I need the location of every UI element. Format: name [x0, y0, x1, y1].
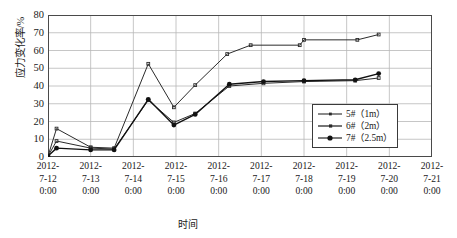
data-point: [112, 148, 117, 153]
y-axis-tick-label: 70: [18, 28, 44, 38]
y-axis-ticks: 01020304050607080: [14, 15, 44, 157]
legend-item-0: 5#（1m）: [317, 108, 392, 120]
chart-legend: 5#（1m） 6#（2m） 7#（2.5m）: [312, 104, 398, 148]
x-axis-ticks: 2012-7-120:002012-7-130:002012-7-140:002…: [48, 160, 432, 216]
data-point: [353, 77, 358, 82]
legend-key-line-icon: [317, 109, 343, 119]
y-axis-tick-label: 10: [18, 134, 44, 144]
data-point: [302, 78, 307, 83]
legend-label-6: 6#（2m）: [346, 121, 385, 131]
x-axis-label: 时间: [178, 216, 198, 231]
legend-label-7: 7#（2.5m）: [346, 133, 392, 143]
data-point: [227, 82, 232, 87]
legend-key-marker-icon: [317, 133, 343, 143]
data-point: [376, 71, 381, 76]
legend-item-2: 7#（2.5m）: [317, 132, 392, 144]
y-axis-tick-label: 80: [18, 10, 44, 20]
data-point: [146, 97, 151, 102]
x-axis-tick-label: 2012-7-210:00: [403, 160, 457, 198]
legend-label-5: 5#（1m）: [346, 109, 385, 119]
stress-change-rate-chart: 应力变化率/% 01020304050607080 2012-7-120:002…: [0, 0, 457, 238]
legend-item-1: 6#（2m）: [317, 120, 392, 132]
data-point: [171, 123, 176, 128]
data-point: [88, 148, 93, 153]
y-axis-tick-label: 40: [18, 81, 44, 91]
y-axis-tick-label: 20: [18, 117, 44, 127]
data-point: [261, 79, 266, 84]
legend-key-line-icon: [317, 121, 343, 131]
y-axis-tick-label: 50: [18, 63, 44, 73]
y-axis-tick-label: 30: [18, 99, 44, 109]
data-point: [193, 112, 198, 117]
data-point: [54, 146, 59, 151]
y-axis-tick-label: 60: [18, 46, 44, 56]
